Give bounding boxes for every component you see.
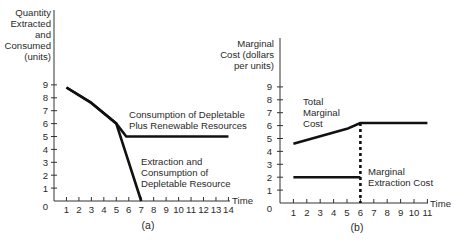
- origin-label: 0: [267, 203, 272, 214]
- x-tick-label: 4: [331, 207, 337, 218]
- origin-label: 0: [43, 201, 48, 212]
- series-label: Marginal: [368, 166, 405, 177]
- panel-b-series-labels: Total Marginal Cost Marginal Extraction …: [303, 96, 433, 188]
- x-tick-label: 11: [186, 204, 196, 215]
- series-label: Depletable Resource: [141, 178, 231, 189]
- x-tick-label: 4: [101, 204, 107, 215]
- y-tick-label: 4: [43, 144, 49, 155]
- panel-a-series-labels: Consumption of Depletable Plus Renewable…: [129, 109, 247, 189]
- series-label: Plus Renewable Resources: [129, 120, 247, 131]
- panel-b: Marginal Cost (dollars per units) 123456…: [220, 38, 451, 233]
- y-tick-label: 5: [267, 133, 272, 144]
- xlabel: Time: [232, 195, 253, 206]
- ylabel-line: and: [35, 29, 51, 40]
- x-tick-label: 13: [211, 204, 222, 215]
- ylabel-line: (units): [24, 51, 51, 62]
- panel-a-ylabel: Quantity Extracted and Consumed (units): [5, 7, 52, 62]
- x-tick-label: 1: [64, 204, 69, 215]
- x-tick-label: 10: [409, 207, 420, 218]
- y-tick-label: 9: [267, 81, 272, 92]
- ylabel-line: Quantity: [15, 7, 51, 18]
- y-tick-label: 4: [267, 146, 273, 157]
- series-label: Marginal: [303, 107, 340, 118]
- y-tick-label: 2: [43, 170, 48, 181]
- y-tick-label: 1: [267, 185, 272, 196]
- x-tick-label: 9: [398, 207, 403, 218]
- y-tick-label: 8: [43, 92, 48, 103]
- x-tick-label: 10: [173, 204, 184, 215]
- y-tick-label: 7: [267, 107, 272, 118]
- series-label: Extraction Cost: [368, 177, 433, 188]
- xlabel: Time: [430, 198, 451, 209]
- ylabel-line: Consumed: [5, 40, 51, 51]
- x-tick-label: 9: [163, 204, 168, 215]
- x-tick-label: 5: [114, 204, 119, 215]
- x-tick-label: 7: [371, 207, 376, 218]
- ylabel-line: per units): [234, 60, 274, 71]
- y-tick-label: 6: [43, 118, 48, 129]
- y-tick-label: 7: [43, 105, 48, 116]
- y-tick-label: 5: [43, 131, 48, 142]
- panel-label: (a): [142, 219, 155, 231]
- x-tick-label: 3: [89, 204, 94, 215]
- series-label: Consumption of: [141, 167, 209, 178]
- x-tick-label: 3: [318, 207, 323, 218]
- x-tick-label: 6: [358, 207, 363, 218]
- x-tick-label: 8: [385, 207, 390, 218]
- series-label: Extraction and: [141, 156, 202, 167]
- figure: Quantity Extracted and Consumed (units) …: [0, 0, 460, 242]
- panel-b-ylabel: Marginal Cost (dollars per units): [220, 38, 274, 71]
- y-tick-label: 3: [43, 157, 48, 168]
- ylabel-line: Marginal: [237, 38, 274, 49]
- panel-label: (b): [351, 221, 364, 233]
- y-tick-label: 9: [43, 79, 48, 90]
- series-label: Consumption of Depletable: [129, 109, 245, 120]
- panel-b-series: [293, 123, 427, 203]
- y-tick-label: 1: [43, 183, 48, 194]
- x-tick-label: 2: [76, 204, 81, 215]
- x-tick-label: 1: [291, 207, 296, 218]
- y-tick-label: 3: [267, 159, 272, 170]
- series-line: [66, 87, 141, 201]
- panel-a: Quantity Extracted and Consumed (units) …: [5, 7, 253, 231]
- x-tick-label: 12: [198, 204, 209, 215]
- series-label: Total: [303, 96, 323, 107]
- x-tick-label: 6: [126, 204, 131, 215]
- x-tick-label: 8: [151, 204, 156, 215]
- y-tick-label: 2: [267, 172, 272, 183]
- series-label: Cost: [303, 118, 323, 129]
- ylabel-line: Cost (dollars: [220, 49, 274, 60]
- x-tick-label: 7: [139, 204, 144, 215]
- y-tick-label: 6: [267, 120, 272, 131]
- x-tick-label: 5: [344, 207, 349, 218]
- ylabel-line: Extracted: [10, 18, 51, 29]
- y-tick-label: 8: [267, 94, 272, 105]
- x-tick-label: 2: [304, 207, 309, 218]
